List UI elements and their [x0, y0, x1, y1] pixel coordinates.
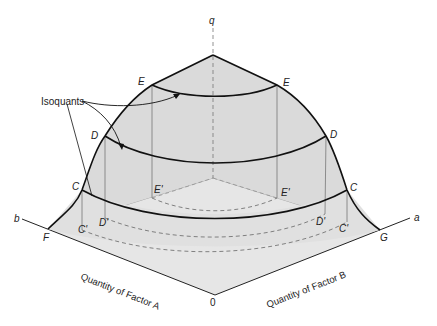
b-axis-label: b	[14, 213, 20, 224]
origin-label: 0	[210, 297, 216, 308]
isoquants-leader-C	[67, 104, 92, 196]
factor-a-title: Quantity of Factor A	[79, 271, 162, 312]
factor-b-title: Quantity of Factor B	[265, 269, 348, 310]
point-E-prime-left: E'	[154, 184, 164, 195]
point-F: F	[43, 232, 50, 243]
point-G: G	[380, 232, 388, 243]
point-C-left: C	[72, 181, 80, 192]
point-E-prime-right: E'	[281, 187, 291, 198]
point-D-left: D	[91, 130, 98, 141]
a-axis-label: a	[414, 212, 420, 223]
q-label: q	[209, 15, 215, 26]
point-C-prime-left: C'	[78, 224, 88, 235]
point-E-left: E	[138, 76, 145, 87]
point-C-right: C	[350, 182, 358, 193]
point-D-prime-right: D'	[316, 216, 326, 227]
point-D-prime-left: D'	[99, 217, 109, 228]
production-surface-diagram: q Isoquants E E D D C C E' E' D' D' C' C…	[0, 0, 437, 326]
isoquants-label: Isoquants	[41, 96, 84, 107]
point-C-prime-right: C'	[339, 223, 349, 234]
point-E-right: E	[283, 77, 290, 88]
point-D-right: D	[330, 129, 337, 140]
